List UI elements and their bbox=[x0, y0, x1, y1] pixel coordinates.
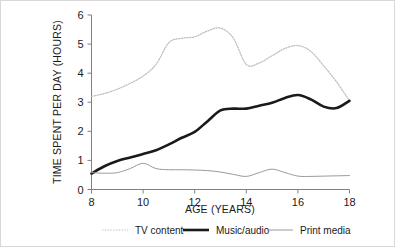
y-tick-label: 2 bbox=[77, 125, 83, 137]
y-tick-label: 1 bbox=[77, 154, 83, 166]
legend-label-1: Music/audio bbox=[216, 225, 270, 236]
chart-legend: TV contentMusic/audioPrint media bbox=[102, 225, 351, 236]
x-tick-label: 16 bbox=[292, 196, 304, 208]
plot-axes bbox=[92, 15, 350, 190]
series-lines bbox=[92, 28, 350, 177]
y-tick-label: 0 bbox=[77, 184, 83, 196]
chart-figure: 0123456 81012141618 AGE (YEARS) TIME SPE… bbox=[0, 0, 395, 247]
series-line-print-media bbox=[92, 163, 350, 176]
series-line-tv-content bbox=[92, 28, 350, 101]
legend-label-0: TV content bbox=[135, 225, 184, 236]
y-tick-label: 6 bbox=[77, 9, 83, 21]
y-tick-label: 5 bbox=[77, 38, 83, 50]
legend-label-2: Print media bbox=[300, 225, 351, 236]
x-tick-label: 8 bbox=[88, 196, 94, 208]
y-tick-labels: 0123456 bbox=[77, 9, 83, 196]
series-line-music-audio bbox=[92, 95, 350, 174]
x-tick-label: 10 bbox=[137, 196, 149, 208]
line-chart: 0123456 81012141618 AGE (YEARS) TIME SPE… bbox=[1, 1, 395, 247]
x-tick-label: 18 bbox=[343, 196, 355, 208]
y-tick-label: 4 bbox=[77, 67, 83, 79]
y-axis-title: TIME SPENT PER DAY (HOURS) bbox=[51, 20, 63, 184]
y-tick-label: 3 bbox=[77, 96, 83, 108]
x-tick-marks bbox=[92, 190, 350, 194]
y-tick-marks bbox=[88, 15, 92, 190]
x-axis-title: AGE (YEARS) bbox=[185, 203, 255, 215]
